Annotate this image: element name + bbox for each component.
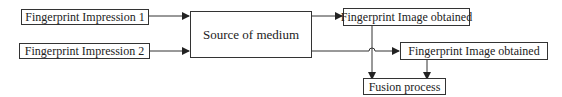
node-label: Fingerprint Impression 1 [25,11,144,23]
node-label: Fusion process [369,81,441,93]
node-label: Fingerprint Image obtained [408,45,539,57]
node-fingerprint-impression-1: Fingerprint Impression 1 [21,9,149,25]
node-fingerprint-image-obtained-2: Fingerprint Image obtained [400,42,548,60]
node-label: Fingerprint Image obtained [341,11,472,23]
arrow-source-to-image2 [312,48,399,51]
node-fingerprint-image-obtained-1: Fingerprint Image obtained [343,8,470,26]
node-fingerprint-impression-2: Fingerprint Impression 2 [19,43,150,59]
node-fusion-process: Fusion process [363,78,446,95]
fingerprint-fusion-diagram: Fingerprint Impression 1 Fingerprint Imp… [0,0,562,97]
node-label: Source of medium [203,28,299,41]
node-label: Fingerprint Impression 2 [25,45,144,57]
node-source-of-medium: Source of medium [190,11,312,58]
